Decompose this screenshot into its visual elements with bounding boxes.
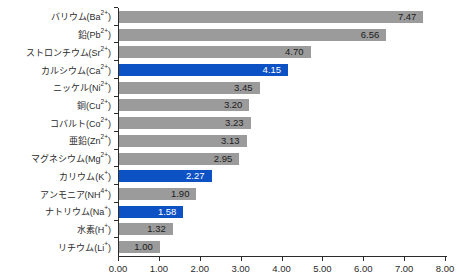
chart-row: リチウム(Li+)1.00: [0, 238, 445, 256]
bar: 3.13: [119, 135, 247, 147]
x-axis-tick-labels: 0.001.002.003.004.005.006.007.008.00: [118, 263, 445, 275]
y-axis-tick: [114, 149, 118, 150]
x-axis-tick: [445, 257, 446, 261]
category-label: バリウム(Ba2+): [0, 10, 118, 23]
bar-value-label: 7.47: [398, 11, 417, 23]
row-plot-area: 1.00: [118, 238, 445, 256]
row-plot-area: 2.95: [118, 150, 445, 168]
x-axis-tick: [363, 257, 364, 261]
bar-highlighted: 2.27: [119, 170, 212, 182]
bar-value-label: 3.45: [234, 82, 253, 94]
y-axis-tick: [114, 96, 118, 97]
bar: 6.56: [119, 29, 386, 41]
bar: 1.90: [119, 188, 196, 200]
x-axis-tick-label: 8.00: [436, 263, 455, 274]
x-axis-tick-label: 3.00: [231, 263, 250, 274]
y-axis-tick: [114, 166, 118, 167]
bar: 3.20: [119, 99, 249, 111]
ion-charge-superscript: +: [104, 240, 108, 247]
bar-value-label: 1.58: [158, 206, 177, 218]
category-label: アンモニア(NH4+): [0, 188, 118, 201]
x-axis-tick-label: 1.00: [150, 263, 169, 274]
ion-charge-superscript: 2+: [101, 116, 108, 123]
ion-charge-superscript: 2+: [101, 45, 108, 52]
bar: 1.32: [119, 223, 173, 235]
category-label: カルシウム(Ca2+): [0, 64, 118, 77]
category-label: ニッケル(Ni2+): [0, 81, 118, 94]
ion-charge-superscript: 2+: [101, 9, 108, 16]
chart-row: コバルト(Co2+)3.23: [0, 114, 445, 132]
category-label: 水素(H+): [0, 223, 118, 236]
chart-row: カルシウム(Ca2+)4.15: [0, 61, 445, 79]
y-axis-tick: [114, 237, 118, 238]
bar-value-label: 2.27: [186, 170, 205, 182]
chart-row: ナトリウム(Na+)1.58: [0, 203, 445, 221]
y-axis-tick: [114, 184, 118, 185]
y-axis-tick: [114, 25, 118, 26]
bar-value-label: 6.56: [361, 29, 380, 41]
ion-charge-superscript: 2+: [101, 98, 108, 105]
bar-value-label: 3.13: [221, 135, 240, 147]
bar: 3.45: [119, 82, 260, 94]
bar-value-label: 4.15: [263, 64, 282, 76]
row-plot-area: 6.56: [118, 26, 445, 44]
y-axis-tick: [114, 131, 118, 132]
chart-row: マグネシウム(Mg2+)2.95: [0, 150, 445, 168]
ion-charge-superscript: +: [104, 204, 108, 211]
x-axis-tick-label: 5.00: [313, 263, 332, 274]
x-axis-tick-label: 6.00: [354, 263, 373, 274]
bar-value-label: 1.00: [134, 241, 153, 253]
bar-value-label: 1.90: [171, 188, 190, 200]
y-axis-tick: [114, 78, 118, 79]
row-plot-area: 4.15: [118, 61, 445, 79]
y-axis-tick: [114, 202, 118, 203]
bar-value-label: 2.95: [214, 153, 233, 165]
ion-selectivity-bar-chart: バリウム(Ba2+)7.47鉛(Pb2+)6.56ストロンチウム(Sr2+)4.…: [0, 0, 459, 279]
row-plot-area: 7.47: [118, 8, 445, 26]
category-label: マグネシウム(Mg2+): [0, 152, 118, 165]
x-axis-tick: [241, 257, 242, 261]
row-plot-area: 3.23: [118, 114, 445, 132]
category-label: 鉛(Pb2+): [0, 28, 118, 41]
row-plot-area: 1.32: [118, 221, 445, 239]
ion-charge-superscript: 4+: [101, 187, 108, 194]
x-axis-ticks: [118, 257, 445, 261]
category-label: カリウム(K+): [0, 170, 118, 183]
y-axis-tick: [114, 7, 118, 8]
row-plot-area: 2.27: [118, 167, 445, 185]
chart-rows: バリウム(Ba2+)7.47鉛(Pb2+)6.56ストロンチウム(Sr2+)4.…: [0, 8, 445, 256]
bar: 1.00: [119, 241, 160, 253]
bar: 2.95: [119, 153, 239, 165]
category-label: ストロンチウム(Sr2+): [0, 46, 118, 59]
ion-charge-superscript: +: [104, 169, 108, 176]
chart-row: バリウム(Ba2+)7.47: [0, 8, 445, 26]
chart-row: ストロンチウム(Sr2+)4.70: [0, 43, 445, 61]
ion-charge-superscript: 2+: [101, 151, 108, 158]
x-axis-tick: [200, 257, 201, 261]
y-axis-tick: [114, 60, 118, 61]
bar-highlighted: 1.58: [119, 206, 183, 218]
ion-charge-superscript: 2+: [101, 63, 108, 70]
bar: 3.23: [119, 117, 251, 129]
x-axis-tick: [322, 257, 323, 261]
ion-charge-superscript: 2+: [101, 80, 108, 87]
bar-value-label: 4.70: [285, 46, 304, 58]
y-axis-tick: [114, 113, 118, 114]
row-plot-area: 1.58: [118, 203, 445, 221]
chart-row: 銅(Cu2+)3.20: [0, 97, 445, 115]
category-label: ナトリウム(Na+): [0, 205, 118, 218]
category-label: リチウム(Li+): [0, 241, 118, 254]
x-axis-tick: [159, 257, 160, 261]
bar-highlighted: 4.15: [119, 64, 288, 76]
row-plot-area: 4.70: [118, 43, 445, 61]
y-axis-tick: [114, 220, 118, 221]
x-axis-tick-label: 2.00: [191, 263, 210, 274]
row-plot-area: 3.13: [118, 132, 445, 150]
x-axis-tick: [282, 257, 283, 261]
x-axis-tick: [118, 257, 119, 261]
y-axis-tick: [114, 42, 118, 43]
category-label: 銅(Cu2+): [0, 99, 118, 112]
chart-row: アンモニア(NH4+)1.90: [0, 185, 445, 203]
x-axis-tick-label: 7.00: [395, 263, 414, 274]
category-label: 亜鉛(Zn2+): [0, 134, 118, 147]
